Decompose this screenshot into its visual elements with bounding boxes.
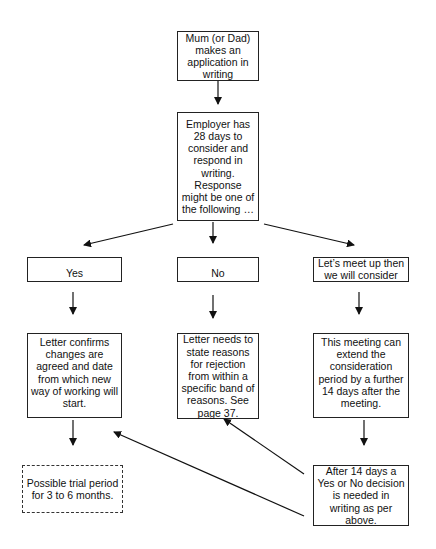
node-after-14-days: After 14 days a Yes or No decision is ne… <box>313 465 409 526</box>
node-after-14-text: After 14 days a Yes or No decision is ne… <box>317 465 405 526</box>
arrow-employer-to-consider <box>264 224 354 245</box>
node-trial: Possible trial period for 3 to 6 months. <box>22 465 123 513</box>
node-trial-text: Possible trial period for 3 to 6 months. <box>26 477 119 501</box>
node-no-letter-text: Letter needs to state reasons for reject… <box>181 333 255 418</box>
node-consider: Let’s meet up then we will consider <box>313 257 409 282</box>
node-no: No <box>177 257 259 282</box>
node-no-text: No <box>211 267 224 279</box>
node-yes-letter-text: Letter confirms changes are agreed and d… <box>31 336 118 409</box>
node-no-letter: Letter needs to state reasons for reject… <box>177 333 259 419</box>
node-employer-text: Employer has 28 days to consider and res… <box>181 118 255 216</box>
node-yes-text: Yes <box>66 267 83 279</box>
node-consider-text: Let’s meet up then we will consider <box>317 258 405 281</box>
arrow-after14-to-yes-letter <box>114 432 304 516</box>
node-employer: Employer has 28 days to consider and res… <box>177 112 259 221</box>
node-meeting-text: This meeting can extend the consideratio… <box>317 336 405 409</box>
node-yes: Yes <box>27 257 122 282</box>
arrow-employer-to-yes <box>84 224 173 245</box>
node-application: Mum (or Dad) makes an application in wri… <box>177 31 259 81</box>
node-application-text: Mum (or Dad) makes an application in wri… <box>181 32 255 81</box>
node-meeting: This meeting can extend the consideratio… <box>313 333 409 418</box>
arrow-after14-to-no-letter <box>224 419 304 474</box>
node-yes-letter: Letter confirms changes are agreed and d… <box>27 333 122 418</box>
